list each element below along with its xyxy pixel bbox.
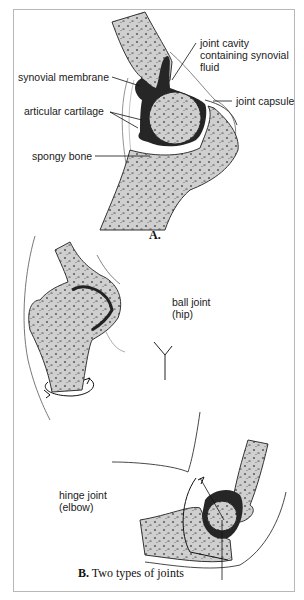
label-joint-capsule: joint capsule	[236, 95, 294, 107]
ball-joint-hip-diagram	[24, 236, 172, 420]
label-synovial-membrane: synovial membrane	[18, 71, 109, 83]
hinge-joint-elbow-diagram	[112, 412, 286, 580]
label-joint-cavity: joint cavity containing synovial fluid	[200, 37, 289, 73]
caption-b-text: Two types of joints	[89, 566, 184, 580]
label-ball-joint: ball joint (hip)	[172, 296, 211, 320]
label-hinge-joint: hinge joint (elbow)	[59, 489, 107, 513]
caption-a-letter: A.	[149, 228, 161, 242]
caption-b-letter: B.	[78, 566, 89, 580]
label-articular-cartilage: articular cartilage	[24, 105, 104, 117]
joint-illustrations	[0, 0, 304, 600]
caption-figure-a: A.	[149, 228, 161, 243]
caption-figure-b: B. Two types of joints	[78, 566, 184, 581]
label-spongy-bone: spongy bone	[32, 150, 92, 162]
